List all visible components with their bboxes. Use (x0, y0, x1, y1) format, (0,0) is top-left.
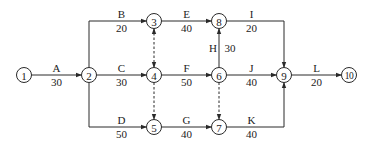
node-5: 5 (147, 120, 162, 135)
node-4: 4 (147, 68, 162, 83)
activity-duration-i: 20 (246, 22, 258, 34)
activity-name-f: F (183, 62, 189, 74)
activity-duration-k: 40 (246, 128, 258, 140)
activity-duration-g: 40 (181, 128, 193, 140)
network-diagram: A30B20C30D50E40F50G40H30I20J40K40L20 123… (0, 0, 368, 143)
node-label: 2 (86, 70, 92, 82)
node-label: 7 (216, 122, 222, 134)
activity-name-g: G (183, 114, 191, 126)
activity-name-c: C (118, 62, 125, 74)
node-6: 6 (212, 68, 227, 83)
activity-name-i: I (250, 8, 254, 20)
activity-name-e: E (183, 8, 190, 20)
node-label: 4 (151, 70, 157, 82)
node-9: 9 (277, 68, 292, 83)
node-1: 1 (17, 68, 32, 83)
activity-name-l: L (313, 62, 320, 74)
activity-duration-h: 30 (225, 42, 237, 54)
activity-duration-a: 30 (51, 76, 63, 88)
activity-name-k: K (248, 114, 256, 126)
node-label: 5 (151, 122, 157, 134)
node-label: 6 (216, 70, 222, 82)
node-label: 8 (216, 16, 222, 28)
activity-name-b: B (118, 8, 125, 20)
activity-duration-c: 30 (116, 76, 128, 88)
node-2: 2 (82, 68, 97, 83)
activity-name-a: A (53, 62, 61, 74)
activity-name-j: J (249, 62, 254, 74)
activity-duration-b: 20 (116, 22, 128, 34)
node-8: 8 (212, 14, 227, 29)
node-10: 10 (342, 68, 357, 83)
activity-duration-j: 40 (246, 76, 258, 88)
node-7: 7 (212, 120, 227, 135)
activity-name-h: H (209, 42, 217, 54)
activity-duration-d: 50 (116, 128, 128, 140)
activity-duration-f: 50 (181, 76, 193, 88)
node-label: 10 (345, 71, 354, 81)
activity-duration-l: 20 (311, 76, 323, 88)
node-label: 1 (21, 70, 27, 82)
activity-name-d: D (118, 114, 126, 126)
node-label: 9 (281, 70, 287, 82)
activity-duration-e: 40 (181, 22, 193, 34)
node-3: 3 (147, 14, 162, 29)
node-label: 3 (151, 16, 157, 28)
